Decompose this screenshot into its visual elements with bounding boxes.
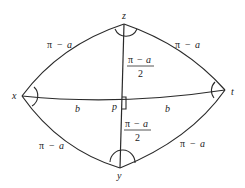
- svg-text:π: π: [180, 138, 185, 149]
- fraction-label-zp: π − a 2: [127, 54, 154, 79]
- edge-label-zt: π − a: [175, 39, 200, 50]
- svg-text:π: π: [128, 54, 133, 65]
- svg-text:−: −: [137, 54, 143, 65]
- svg-text:π: π: [47, 39, 52, 50]
- svg-text:a: a: [146, 54, 151, 65]
- svg-text:−: −: [57, 39, 63, 50]
- edge-label-zx: π − a: [47, 39, 72, 50]
- fraction-label-py: π − a 2: [124, 118, 151, 143]
- vertex-label-t: t: [231, 86, 234, 97]
- svg-text:a: a: [200, 138, 205, 149]
- edge-z-x: [22, 24, 124, 96]
- svg-text:a: a: [143, 118, 148, 129]
- vertex-label-z: z: [121, 10, 126, 21]
- svg-text:−: −: [49, 140, 55, 151]
- angle-arc-t: [211, 82, 215, 98]
- vertex-label-y: y: [116, 170, 122, 181]
- svg-text:a: a: [67, 39, 72, 50]
- edge-x-t: [22, 90, 225, 100]
- vertex-label-x: x: [11, 90, 17, 101]
- svg-text:a: a: [195, 39, 200, 50]
- angle-arc-y: [110, 150, 135, 163]
- edge-label-ty: π − a: [180, 138, 205, 149]
- svg-text:π: π: [175, 39, 180, 50]
- svg-text:π: π: [125, 118, 130, 129]
- spherical-quadrilateral-diagram: z x t y p π − a π − a π − a π − a b b π …: [0, 0, 245, 188]
- edge-z-y: [120, 24, 124, 168]
- edge-t-y: [120, 90, 225, 168]
- svg-text:−: −: [134, 118, 140, 129]
- edge-label-pt: b: [165, 103, 170, 114]
- svg-text:2: 2: [138, 68, 143, 79]
- edge-x-y: [22, 96, 120, 168]
- svg-text:π: π: [39, 140, 44, 151]
- angle-arc-z: [115, 29, 137, 36]
- svg-text:−: −: [190, 138, 196, 149]
- edge-label-xy: π − a: [39, 140, 64, 151]
- vertex-label-p: p: [111, 101, 117, 112]
- svg-text:a: a: [59, 140, 64, 151]
- edge-label-xp: b: [75, 103, 80, 114]
- svg-text:−: −: [185, 39, 191, 50]
- svg-text:2: 2: [135, 132, 140, 143]
